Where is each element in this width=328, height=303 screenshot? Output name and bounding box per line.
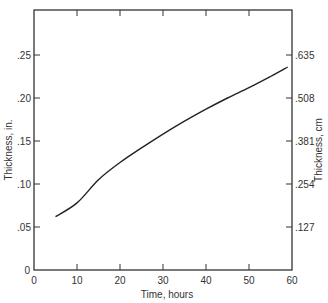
y-tick-labels-left: 0.05.10.15.20.25 [17,50,31,276]
x-tick-label: 10 [71,275,83,286]
x-tick-label: 60 [286,275,298,286]
x-tick-label: 50 [243,275,255,286]
x-tick-labels: 0102030405060 [31,275,298,286]
x-tick-label: 0 [31,275,37,286]
y-tick-label-left: .15 [17,136,31,147]
x-axis-title: Time, hours [141,289,193,300]
axis-ticks [34,10,292,270]
y-tick-label-left: .25 [17,50,31,61]
y-axis-title-right: Thickness, cm [313,118,324,182]
y-tick-label-right: .127 [295,222,315,233]
x-tick-label: 20 [114,275,126,286]
thickness-curve [56,67,288,217]
y-tick-label-left: .05 [17,222,31,233]
y-tick-label-left: 0 [24,265,30,276]
y-tick-label-right: .508 [295,93,315,104]
y-tick-label-left: .10 [17,179,31,190]
plot-frame [34,10,292,270]
y-tick-label-right: .381 [295,136,315,147]
plot-border [34,10,292,270]
y-tick-labels-right: .127.254.381.508.635 [295,50,315,233]
y-tick-label-right: .635 [295,50,315,61]
y-tick-label-left: .20 [17,93,31,104]
x-tick-label: 30 [157,275,169,286]
chart: 0102030405060 0.05.10.15.20.25 .127.254.… [0,0,328,303]
x-tick-label: 40 [200,275,212,286]
y-axis-title-left: Thickness, in. [3,119,14,180]
y-tick-label-right: .254 [295,179,315,190]
